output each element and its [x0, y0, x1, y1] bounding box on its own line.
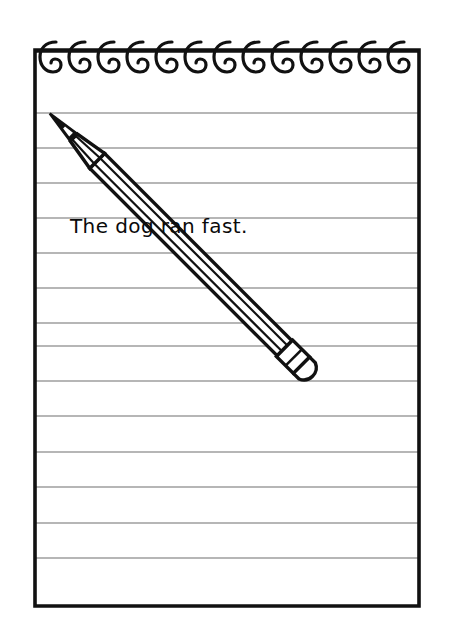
- notepad-illustration: [0, 0, 465, 634]
- illustration-canvas: The dog ran fast.: [0, 0, 465, 634]
- handwritten-note-text: The dog ran fast.: [70, 216, 248, 236]
